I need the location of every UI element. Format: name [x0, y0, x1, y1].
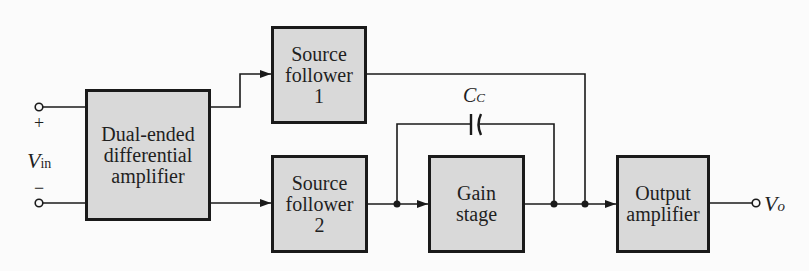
- block-label-line: amplifier: [626, 204, 699, 225]
- source-follower-2-block: Source follower 2: [271, 155, 368, 253]
- block-label-line: Source: [292, 173, 348, 194]
- input-voltage-label: Vin: [27, 148, 51, 174]
- output-voltage-label: Vo: [764, 191, 785, 217]
- capacitor-label: CC: [463, 84, 485, 107]
- vin-subscript: in: [40, 156, 51, 171]
- input-minus-label: −: [34, 178, 44, 199]
- output-terminal: [752, 199, 760, 207]
- block-label-line: Source: [291, 44, 347, 65]
- input-plus-label: +: [34, 113, 44, 134]
- block-label-line: differential: [104, 145, 192, 166]
- vin-symbol: V: [27, 148, 40, 173]
- diffamp-to-sf1-wire: [210, 74, 271, 107]
- block-label-line: stage: [456, 204, 497, 225]
- gain-stage-block: Gain stage: [428, 155, 525, 253]
- block-label-line: follower: [286, 194, 354, 215]
- input-minus-terminal: [35, 199, 43, 207]
- output-amplifier-block: Output amplifier: [616, 155, 710, 253]
- dual-ended-differential-amplifier-block: Dual-ended differential amplifier: [85, 89, 211, 221]
- junction-dot: [394, 201, 401, 208]
- vo-subscript: o: [777, 198, 785, 214]
- block-diagram: Dual-ended differential amplifier Source…: [0, 0, 809, 271]
- block-label-line: 1: [314, 86, 324, 107]
- block-label-line: Gain: [457, 183, 496, 204]
- source-follower-1-block: Source follower 1: [271, 26, 367, 124]
- block-label-line: Output: [635, 183, 691, 204]
- cc-symbol: C: [463, 84, 476, 106]
- vo-symbol: V: [764, 191, 777, 216]
- cc-subscript: C: [476, 90, 485, 105]
- block-label-line: Dual-ended: [101, 124, 194, 145]
- junction-dot: [551, 201, 558, 208]
- block-label-line: amplifier: [111, 166, 184, 187]
- input-plus-terminal: [35, 103, 43, 111]
- block-label-line: follower: [285, 65, 353, 86]
- block-label-line: 2: [315, 215, 325, 236]
- junction-dot: [582, 201, 589, 208]
